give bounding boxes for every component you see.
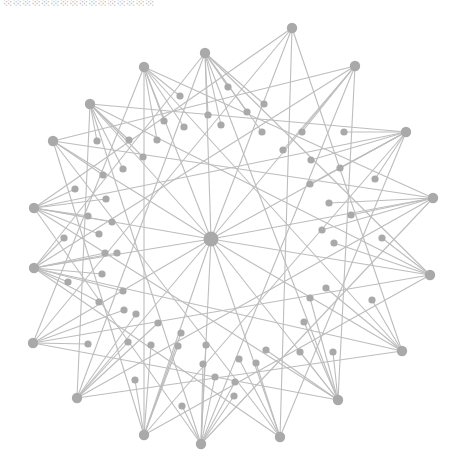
graph-edge — [205, 53, 430, 275]
outer-node — [29, 263, 39, 273]
outer-node — [425, 270, 435, 280]
graph-edge — [182, 406, 201, 444]
mid-node — [98, 270, 105, 277]
mid-node — [329, 348, 336, 355]
mid-node — [125, 136, 132, 143]
mid-node — [139, 153, 146, 160]
mid-node — [243, 108, 250, 115]
graph-edge — [77, 314, 136, 398]
mid-node — [260, 100, 267, 107]
mid-node — [84, 340, 91, 347]
mid-node — [101, 249, 108, 256]
mid-node — [211, 373, 218, 380]
graph-edge — [382, 238, 430, 275]
outer-node — [196, 439, 206, 449]
graph-edge — [34, 268, 280, 437]
mid-node — [131, 376, 138, 383]
graph-edge — [351, 198, 433, 215]
mid-node — [378, 234, 385, 241]
graph-edge — [311, 132, 406, 160]
mid-node — [306, 180, 313, 187]
outer-node — [139, 62, 149, 72]
graph-edge — [144, 67, 157, 140]
mid-node — [258, 128, 265, 135]
mid-node — [84, 212, 91, 219]
graph-edge — [280, 28, 292, 437]
graph-edge — [211, 239, 430, 275]
mid-node — [147, 341, 154, 348]
outer-node — [48, 136, 58, 146]
hub-node — [204, 232, 219, 247]
mid-node — [306, 294, 313, 301]
outer-node — [401, 127, 411, 137]
mid-node — [93, 137, 100, 144]
mid-node — [279, 146, 286, 153]
graph-edge — [302, 66, 355, 132]
mid-node — [64, 278, 71, 285]
outer-node — [397, 346, 407, 356]
outer-node — [350, 61, 360, 71]
mid-node — [199, 360, 206, 367]
outer-node — [85, 99, 95, 109]
mid-node — [217, 121, 224, 128]
graph-edge — [144, 239, 211, 435]
outer-node — [29, 203, 39, 213]
mid-node — [174, 342, 181, 349]
mid-node — [368, 296, 375, 303]
mid-node — [95, 230, 102, 237]
graph-edge — [53, 141, 103, 175]
mid-node — [99, 171, 106, 178]
mid-node — [230, 392, 237, 399]
mid-node — [153, 136, 160, 143]
outer-node — [275, 432, 285, 442]
mid-node — [154, 319, 161, 326]
mid-node — [231, 378, 238, 385]
mid-node — [71, 185, 78, 192]
network-graph — [0, 0, 460, 468]
graph-edge — [256, 363, 280, 437]
graph-edge — [77, 342, 128, 398]
mid-node — [347, 211, 354, 218]
mid-node — [102, 195, 109, 202]
mid-node — [336, 164, 343, 171]
mid-node — [132, 310, 139, 317]
mid-node — [202, 341, 209, 348]
graph-edge — [34, 268, 402, 351]
graph-edge — [77, 323, 158, 398]
outer-node — [428, 193, 438, 203]
mid-node — [262, 346, 269, 353]
mid-node — [330, 239, 337, 246]
mid-node — [180, 123, 187, 130]
graph-edge — [375, 132, 406, 179]
outer-node — [28, 338, 38, 348]
mid-node — [160, 117, 167, 124]
mid-node — [296, 348, 303, 355]
mid-node — [176, 92, 183, 99]
mid-node — [224, 83, 231, 90]
graph-edge — [211, 28, 292, 239]
mid-node — [340, 128, 347, 135]
mid-node — [235, 355, 242, 362]
mid-node — [178, 402, 185, 409]
mid-node — [119, 287, 126, 294]
mid-node — [307, 156, 314, 163]
mid-node — [298, 128, 305, 135]
graph-edge — [53, 141, 433, 198]
outer-node — [72, 393, 82, 403]
graph-edge — [77, 104, 90, 398]
outer-node — [287, 23, 297, 33]
mid-node — [60, 234, 67, 241]
mid-node — [300, 318, 307, 325]
outer-node — [333, 395, 343, 405]
mid-node — [95, 298, 102, 305]
mid-node — [252, 359, 259, 366]
mid-node — [177, 329, 184, 336]
mid-node — [371, 175, 378, 182]
mid-node — [108, 218, 115, 225]
mid-node — [113, 249, 120, 256]
outer-node — [200, 48, 210, 58]
graph-edge — [53, 66, 355, 141]
mid-node — [120, 306, 127, 313]
mid-node — [124, 338, 131, 345]
mid-node — [318, 226, 325, 233]
